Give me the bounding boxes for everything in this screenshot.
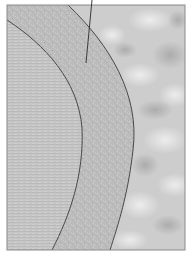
layer-diagram [0,0,192,256]
